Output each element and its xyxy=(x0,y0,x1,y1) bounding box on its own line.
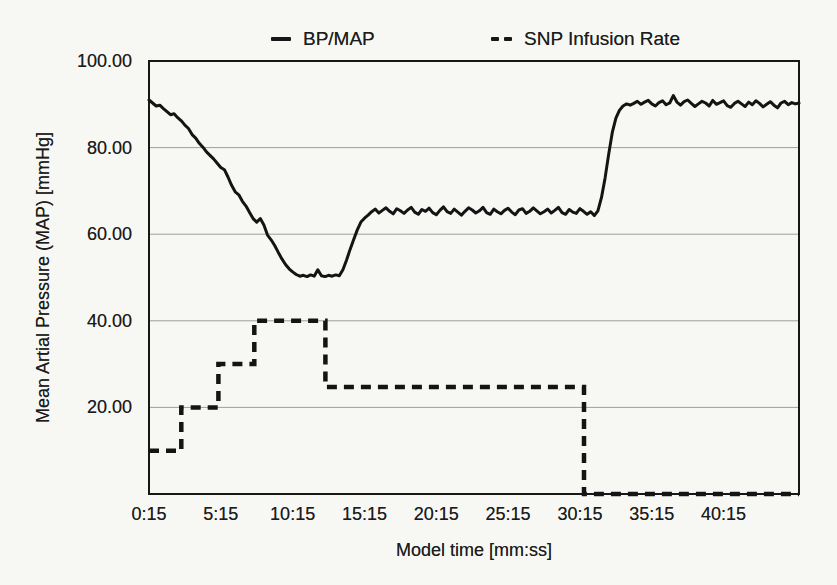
plot-area xyxy=(0,0,837,585)
series-line-bp-map xyxy=(149,96,799,277)
plot-frame xyxy=(149,61,799,494)
bp-snp-chart: BP/MAP SNP Infusion Rate Mean Artial Pre… xyxy=(0,0,837,585)
